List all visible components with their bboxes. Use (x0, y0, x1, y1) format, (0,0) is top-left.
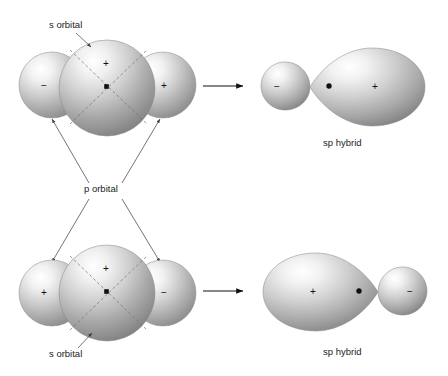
sign-s-center-bottom: + (103, 263, 109, 274)
sign-p-right-top: + (161, 80, 167, 91)
sign-sp-hybrid-small-bottom: − (407, 286, 413, 297)
sign-s-center-top: + (103, 58, 109, 69)
nucleus-dot (104, 289, 109, 294)
label-sp-hybrid-bottom: sp hybrid (323, 346, 362, 357)
sign-sp-hybrid-large-top: + (372, 81, 378, 92)
label-s-orbital-top: s orbital (49, 19, 82, 30)
label-p-orbital: p orbital (84, 183, 118, 194)
sp-hybrid-small-lobe (378, 267, 427, 315)
sign-p-left-bottom: + (41, 287, 47, 298)
leader-s-orbital-top (76, 33, 91, 47)
nucleus-dot (104, 84, 109, 89)
sign-sp-hybrid-small-top: − (274, 81, 280, 92)
sign-p-left-top: − (41, 80, 47, 91)
sp-hybrid-orbital-top: − + (261, 48, 425, 126)
label-s-orbital-bottom: s orbital (49, 348, 82, 359)
label-sp-hybrid-top: sp hybrid (323, 137, 362, 148)
sign-p-right-bottom: − (161, 287, 167, 298)
sp-hybrid-orbital-bottom: + − (263, 253, 427, 331)
nucleus-dot (356, 288, 361, 293)
bottom-reactant-group: + + − (19, 245, 196, 341)
sp-hybrid-small-lobe (261, 62, 310, 110)
sign-sp-hybrid-large-bottom: + (310, 286, 316, 297)
top-reactant-group: − + + (19, 40, 196, 136)
orbital-hybridization-diagram: − + + s orbital − + sp hybrid p orbital … (0, 0, 448, 376)
nucleus-dot (326, 83, 331, 88)
